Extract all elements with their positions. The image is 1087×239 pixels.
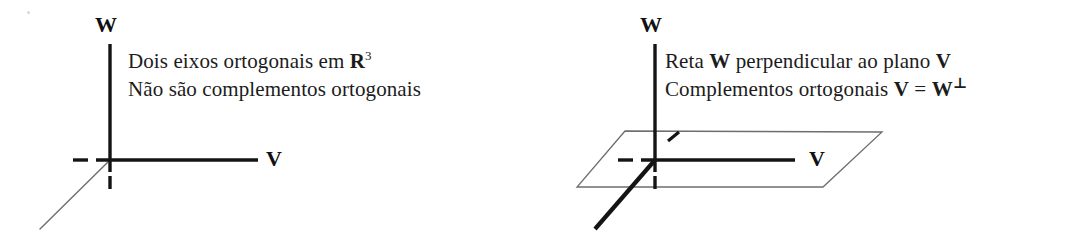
right-diagram-graphics bbox=[543, 0, 1087, 239]
left-axis-v-label: V bbox=[266, 146, 282, 172]
right-caption-line1-bold-v: V bbox=[936, 49, 951, 73]
left-diagram-graphics bbox=[0, 0, 543, 239]
perpendicular-symbol: ⊥ bbox=[953, 75, 968, 91]
right-caption-line2-bold-w: W bbox=[932, 77, 953, 101]
left-caption-line-2: Não são complementos ortogonais bbox=[128, 75, 421, 103]
right-caption-line2-equals: = bbox=[909, 77, 932, 101]
left-axis-w-label: W bbox=[95, 12, 117, 38]
left-caption-line1-text: Dois eixos ortogonais em bbox=[128, 49, 350, 73]
orthogonal-complements-figure: W V Dois eixos ortogonais em R3 Não são … bbox=[0, 0, 1087, 239]
bold-diagonal-w-line bbox=[595, 160, 655, 229]
right-caption-line2-pre: Complementos ortogonais bbox=[665, 77, 894, 101]
left-caption-line-1: Dois eixos ortogonais em R3 bbox=[128, 47, 372, 75]
left-caption-line1-bold-r: R bbox=[350, 49, 365, 73]
right-axis-w-label: W bbox=[640, 12, 662, 38]
right-caption-line1-bold-w: W bbox=[709, 49, 730, 73]
left-diagram-panel: W V Dois eixos ortogonais em R3 Não são … bbox=[0, 0, 543, 239]
right-caption-line1-pre: Reta bbox=[665, 49, 709, 73]
hidden-line-tick bbox=[668, 132, 679, 141]
right-caption-line1-mid: perpendicular ao plano bbox=[730, 49, 935, 73]
right-diagram-panel: W V Reta W perpendicular ao plano V Comp… bbox=[543, 0, 1087, 239]
right-caption-line2-bold-v: V bbox=[894, 77, 909, 101]
left-caption-line1-exponent: 3 bbox=[365, 48, 372, 63]
thin-diagonal-third-axis bbox=[40, 160, 110, 229]
right-caption-line-2: Complementos ortogonais V = W⊥ bbox=[665, 75, 967, 103]
right-caption-line-1: Reta W perpendicular ao plano V bbox=[665, 47, 951, 75]
scan-speck bbox=[27, 11, 30, 14]
right-axis-v-label: V bbox=[809, 146, 825, 172]
